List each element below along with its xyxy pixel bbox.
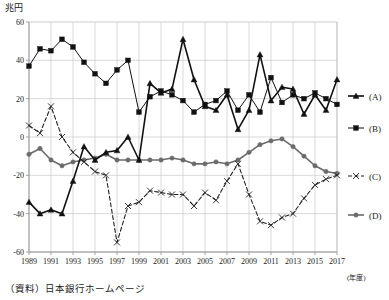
marker-square — [258, 110, 263, 115]
marker-x — [191, 203, 197, 209]
marker-square — [137, 110, 142, 115]
marker-x — [301, 195, 307, 201]
marker-circle — [170, 156, 174, 160]
marker-square — [335, 102, 340, 107]
legend-item-b[interactable]: (B) — [348, 124, 381, 134]
marker-circle — [269, 139, 273, 143]
marker-circle — [258, 142, 262, 146]
marker-square — [126, 58, 131, 63]
marker-square — [247, 93, 252, 98]
y-tick-label: 0 — [20, 133, 24, 142]
marker-square — [38, 47, 43, 52]
marker-triangle — [246, 107, 252, 112]
legend-label: (D) — [369, 211, 382, 221]
marker-triangle — [180, 36, 186, 41]
legend-item-a[interactable]: (A) — [348, 92, 382, 102]
marker-square — [269, 75, 274, 80]
legend: (A)(B)(C)(D) — [348, 92, 382, 221]
y-tick-label: 60 — [16, 18, 24, 27]
marker-square — [82, 60, 87, 65]
legend-label: (A) — [369, 92, 382, 102]
marker-square — [302, 96, 307, 101]
marker-triangle — [257, 52, 263, 57]
marker-circle — [181, 158, 185, 162]
y-tick-label: -60 — [13, 248, 24, 257]
marker-x — [257, 218, 263, 224]
marker-circle — [225, 162, 229, 166]
x-tick-label: 1995 — [87, 257, 103, 266]
marker-triangle — [81, 144, 87, 149]
marker-x — [323, 176, 329, 182]
marker-circle — [148, 158, 152, 162]
marker-circle — [49, 158, 53, 162]
x-axis-ticks: 1989199119931995199719992001200320052007… — [21, 252, 345, 266]
marker-square — [93, 71, 98, 76]
marker-circle — [291, 144, 295, 148]
marker-square — [354, 126, 359, 131]
marker-circle — [324, 169, 328, 173]
x-tick-label: 2013 — [285, 257, 301, 266]
marker-triangle — [147, 80, 153, 85]
marker-circle — [214, 160, 218, 164]
marker-circle — [236, 158, 240, 162]
x-axis-unit-note: (年度) — [347, 272, 366, 282]
marker-triangle — [70, 178, 76, 183]
marker-square — [104, 81, 109, 86]
line-chart: 6040200-20-40-60198919911993199519971999… — [0, 0, 389, 300]
x-tick-label: 2015 — [307, 257, 323, 266]
marker-triangle — [169, 86, 175, 91]
marker-triangle — [48, 207, 54, 212]
legend-item-c[interactable]: (C) — [348, 172, 381, 182]
marker-x — [213, 197, 219, 203]
marker-square — [181, 98, 186, 103]
marker-square — [60, 37, 65, 42]
marker-circle — [27, 152, 31, 156]
marker-circle — [280, 137, 284, 141]
x-tick-label: 1991 — [43, 257, 59, 266]
marker-circle — [247, 150, 251, 154]
marker-circle — [38, 146, 42, 150]
marker-square — [324, 96, 329, 101]
plot-area-wrapper: 6040200-20-40-60198919911993199519971999… — [0, 0, 389, 300]
marker-square — [170, 93, 175, 98]
marker-x — [125, 203, 131, 209]
x-tick-label: 1997 — [109, 257, 125, 266]
marker-circle — [203, 162, 207, 166]
y-tick-label: 20 — [16, 95, 24, 104]
legend-label: (C) — [369, 172, 381, 182]
marker-triangle — [191, 77, 197, 82]
marker-circle — [302, 154, 306, 158]
marker-square — [115, 68, 120, 73]
marker-square — [214, 98, 219, 103]
y-axis-ticks: 6040200-20-40-60 — [13, 18, 29, 257]
marker-circle — [126, 158, 130, 162]
marker-circle — [354, 213, 358, 217]
x-tick-label: 1999 — [131, 257, 147, 266]
marker-circle — [313, 164, 317, 168]
marker-circle — [60, 164, 64, 168]
x-tick-label: 1993 — [65, 257, 81, 266]
source-note: （資料）日本銀行ホームページ — [5, 281, 145, 295]
x-tick-label: 2011 — [263, 257, 279, 266]
marker-triangle — [334, 77, 340, 82]
x-tick-label: 2009 — [241, 257, 257, 266]
marker-circle — [71, 160, 75, 164]
x-tick-label: 2005 — [197, 257, 213, 266]
y-tick-label: -40 — [13, 210, 24, 219]
marker-x — [279, 215, 285, 221]
marker-triangle — [26, 199, 32, 204]
gridlines — [29, 22, 337, 252]
legend-label: (B) — [369, 124, 381, 134]
marker-square — [27, 64, 32, 69]
x-tick-label: 2017 — [329, 257, 345, 266]
marker-square — [236, 108, 241, 113]
marker-circle — [159, 158, 163, 162]
chart-figure: 兆円 6040200-20-40-60198919911993199519971… — [0, 0, 389, 300]
marker-x — [37, 130, 43, 136]
legend-item-d[interactable]: (D) — [348, 211, 382, 221]
marker-square — [71, 45, 76, 50]
marker-square — [280, 100, 285, 105]
y-tick-label: -20 — [13, 171, 24, 180]
x-tick-label: 2007 — [219, 257, 235, 266]
marker-square — [192, 110, 197, 115]
